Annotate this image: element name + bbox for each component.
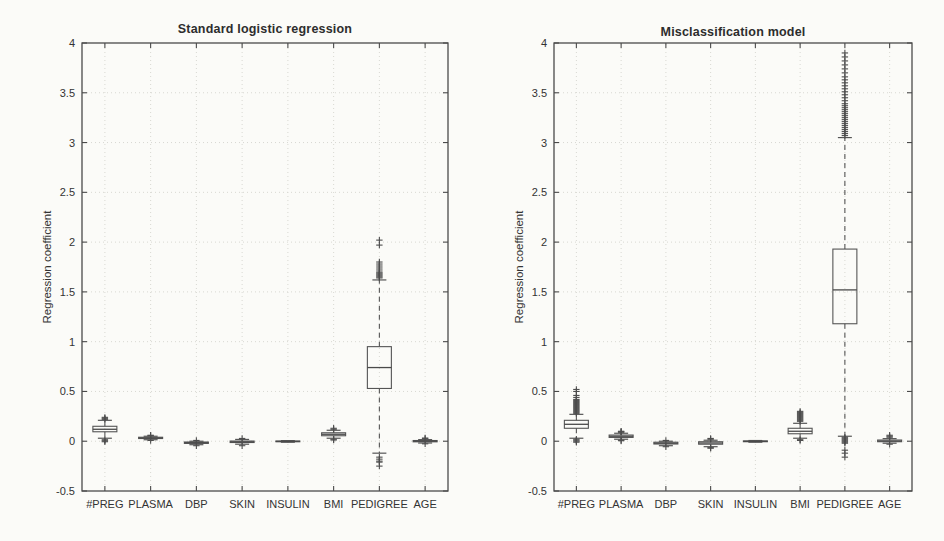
boxplot-figure: Standard logistic regression Misclassifi…: [0, 0, 944, 541]
boxplot-canvas: 43.532.521.510.50-0.5#PREGPLASMADBPSKINI…: [0, 0, 944, 541]
x-category-label: AGE: [878, 498, 901, 510]
y-tick-label: -0.5: [528, 485, 547, 497]
x-category-label: PLASMA: [128, 498, 173, 510]
x-category-label: PLASMA: [599, 498, 644, 510]
y-tick-label: -0.5: [56, 485, 75, 497]
y-tick-label: 1: [69, 336, 75, 348]
boxplot-#PREG: [564, 386, 588, 445]
boxplot-BMI: [322, 425, 346, 443]
x-category-label: PEDIGREE: [816, 498, 873, 510]
y-tick-label: 1.5: [532, 286, 547, 298]
axis-box: [554, 43, 912, 491]
panel-left: 43.532.521.510.50-0.5#PREGPLASMADBPSKINI…: [56, 37, 448, 510]
y-tick-label: 2: [69, 236, 75, 248]
y-tick-label: 3: [541, 137, 547, 149]
y-tick-label: 1.5: [60, 286, 75, 298]
y-tick-label: 3.5: [532, 87, 547, 99]
y-tick-label: 0.5: [60, 385, 75, 397]
y-tick-label: 4: [541, 37, 547, 49]
boxplot-PLASMA: [609, 428, 633, 444]
panel-right: 43.532.521.510.50-0.5#PREGPLASMADBPSKINI…: [528, 37, 912, 510]
boxplot-DBP: [184, 437, 208, 449]
x-category-label: AGE: [414, 498, 437, 510]
boxplot-AGE: [878, 432, 902, 447]
y-tick-label: 4: [69, 37, 75, 49]
boxplot-PEDIGREE: [833, 50, 857, 461]
y-tick-label: 2: [541, 236, 547, 248]
y-tick-label: 2.5: [532, 186, 547, 198]
x-category-label: INSULIN: [266, 498, 309, 510]
boxplot-SKIN: [699, 435, 723, 451]
boxplot-PLASMA: [139, 432, 163, 444]
y-tick-label: 1: [541, 336, 547, 348]
boxplot-SKIN: [230, 435, 254, 449]
x-category-label: BMI: [324, 498, 344, 510]
x-category-label: DBP: [185, 498, 208, 510]
y-tick-label: 3.5: [60, 87, 75, 99]
x-category-label: DBP: [655, 498, 678, 510]
axis-box: [82, 43, 448, 491]
boxplot-INSULIN: [276, 441, 300, 443]
x-category-label: #PREG: [86, 498, 123, 510]
boxplot-#PREG: [93, 414, 117, 445]
x-category-label: BMI: [790, 498, 810, 510]
y-tick-label: 0.5: [532, 385, 547, 397]
y-tick-label: 2.5: [60, 186, 75, 198]
y-tick-label: 0: [541, 435, 547, 447]
x-category-label: PEDIGREE: [351, 498, 408, 510]
boxplot-PEDIGREE: [367, 237, 391, 469]
boxplot-BMI: [788, 408, 812, 443]
x-category-label: SKIN: [229, 498, 255, 510]
y-tick-label: 0: [69, 435, 75, 447]
x-category-label: INSULIN: [734, 498, 777, 510]
boxplot-AGE: [413, 435, 437, 447]
boxplot-DBP: [654, 437, 678, 450]
x-category-label: SKIN: [698, 498, 724, 510]
x-category-label: #PREG: [558, 498, 595, 510]
y-tick-label: 3: [69, 137, 75, 149]
boxplot-INSULIN: [743, 441, 767, 443]
